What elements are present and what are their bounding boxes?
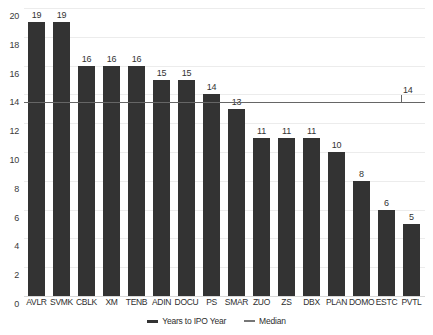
bar-value-label: 16 [74, 54, 99, 64]
y-tick-label: 6 [14, 213, 19, 223]
bar-value-label: 5 [399, 212, 424, 222]
bar-value-label: 10 [324, 140, 349, 150]
y-tick-label: 12 [9, 126, 19, 136]
x-tick-label: TENB [124, 297, 149, 307]
bar[interactable] [378, 210, 395, 296]
bar-slot[interactable] [199, 8, 224, 296]
bar-slot[interactable] [249, 8, 274, 296]
bar-value-label: 19 [24, 10, 49, 20]
bar-slot[interactable] [324, 8, 349, 296]
y-tick-label: 10 [9, 155, 19, 165]
x-tick-label: ZUO [249, 297, 274, 307]
legend-item-series: Years to IPO Year [147, 316, 226, 326]
x-tick-label: ADIN [149, 297, 174, 307]
legend-label-median: Median [259, 316, 286, 326]
bar-slot[interactable] [24, 8, 49, 296]
bar-slot[interactable] [349, 8, 374, 296]
median-value-label: 14 [403, 85, 413, 95]
bar-slot[interactable] [399, 8, 424, 296]
bar-chart: 02468101214161820 1919161616151514131111… [0, 0, 433, 335]
bar-slot[interactable] [174, 8, 199, 296]
series-line-swatch [147, 320, 158, 323]
bars-layer: 19191616161515141311111110865 [24, 8, 425, 296]
median-line-swatch [244, 320, 255, 322]
bar[interactable] [228, 109, 245, 296]
x-tick-label: PLAN [324, 297, 349, 307]
bar-slot[interactable] [99, 8, 124, 296]
y-tick-label: 16 [9, 69, 19, 79]
bar-value-label: 14 [199, 82, 224, 92]
bar[interactable] [178, 80, 195, 296]
x-tick-label: DBX [299, 297, 324, 307]
y-tick-label: 4 [14, 241, 19, 251]
bar[interactable] [403, 224, 420, 296]
chart-legend: Years to IPO Year Median [0, 316, 433, 326]
bar[interactable] [303, 138, 320, 296]
bar[interactable] [153, 80, 170, 296]
bar[interactable] [128, 66, 145, 296]
x-tick-label: DOCU [174, 297, 199, 307]
bar-value-label: 8 [349, 169, 374, 179]
bar[interactable] [78, 66, 95, 296]
plot-area: 19191616161515141311111110865 14 [24, 8, 425, 296]
x-tick-label: DOMO [349, 297, 374, 307]
bar-slot[interactable] [49, 8, 74, 296]
bar-slot[interactable] [274, 8, 299, 296]
bar-value-label: 15 [149, 68, 174, 78]
bar-value-label: 6 [374, 198, 399, 208]
bar[interactable] [253, 138, 270, 296]
bar-value-label: 16 [99, 54, 124, 64]
x-tick-label: ESTC [374, 297, 399, 307]
y-tick-label: 8 [14, 184, 19, 194]
median-line [24, 102, 425, 103]
x-tick-label: CBLK [74, 297, 99, 307]
x-tick-label: SMAR [224, 297, 249, 307]
bar-value-label: 19 [49, 10, 74, 20]
bar[interactable] [328, 152, 345, 296]
bar[interactable] [278, 138, 295, 296]
x-tick-label: PVTL [399, 297, 424, 307]
x-tick-label: AVLR [24, 297, 49, 307]
legend-label-series: Years to IPO Year [162, 316, 226, 326]
bar[interactable] [103, 66, 120, 296]
y-tick-label: 20 [9, 11, 19, 21]
bar[interactable] [53, 22, 70, 296]
x-axis: AVLRSVMKCBLKXMTENBADINDOCUPSSMARZUOZSDBX… [24, 297, 425, 313]
bar-value-label: 11 [249, 126, 274, 136]
x-tick-label: SVMK [49, 297, 74, 307]
bar-value-label: 16 [124, 54, 149, 64]
bar[interactable] [28, 22, 45, 296]
y-tick-label: 0 [14, 299, 19, 309]
bar-slot[interactable] [124, 8, 149, 296]
y-tick-label: 2 [14, 270, 19, 280]
bar[interactable] [203, 94, 220, 296]
legend-item-median: Median [244, 316, 286, 326]
bar-value-label: 15 [174, 68, 199, 78]
bar-slot[interactable] [74, 8, 99, 296]
bar[interactable] [353, 181, 370, 296]
bar-value-label: 11 [299, 126, 324, 136]
bar-slot[interactable] [299, 8, 324, 296]
x-tick-label: PS [199, 297, 224, 307]
bar-value-label: 11 [274, 126, 299, 136]
y-axis: 02468101214161820 [0, 8, 24, 296]
y-tick-label: 14 [9, 97, 19, 107]
y-tick-label: 18 [9, 40, 19, 50]
median-end-tick [401, 95, 402, 102]
x-tick-label: XM [99, 297, 124, 307]
bar-slot[interactable] [224, 8, 249, 296]
bar-slot[interactable] [149, 8, 174, 296]
bar-slot[interactable] [374, 8, 399, 296]
x-tick-label: ZS [274, 297, 299, 307]
